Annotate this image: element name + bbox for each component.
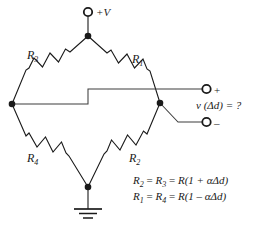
earth-ground-symbol-icon <box>74 209 102 218</box>
junction-dot-left <box>9 101 16 108</box>
resistor-label-r2: R2 <box>129 152 140 167</box>
branch-wire-r4 <box>12 104 88 187</box>
output-negative-sign-label: – <box>214 118 220 129</box>
branch-wire-r3 <box>12 36 88 104</box>
eq1-rhs: R(1 + αΔd) <box>178 174 228 186</box>
equation-r1-r4: R1 = R4 = R(1 – αΔd) <box>133 191 226 205</box>
resistor-label-r3: R3 <box>27 49 38 64</box>
output-terminal-positive-icon[interactable] <box>202 85 210 93</box>
output-voltage-label: v (Δd) = ? <box>196 100 241 111</box>
eq2-rhs: R(1 – αΔd) <box>178 190 226 202</box>
resistor-label-r4-sub: 4 <box>34 158 38 167</box>
circuit-diagram-canvas: +V R3 R1 R4 R2 + – v (Δd) = ? R2 = R3 = … <box>0 0 261 237</box>
resistor-label-r2-sub: 2 <box>136 158 140 167</box>
resistor-label-r3-sub: 3 <box>34 55 38 64</box>
output-wire-positive <box>12 89 202 104</box>
junction-dot-bottom <box>85 184 92 191</box>
equation-r2-r3: R2 = R3 = R(1 + αΔd) <box>133 175 228 189</box>
supply-terminal-icon[interactable] <box>84 8 92 16</box>
output-terminal-negative-icon[interactable] <box>202 118 210 126</box>
supply-terminal-label: +V <box>96 7 110 18</box>
resistor-label-r1-sub: 1 <box>139 59 143 68</box>
resistor-label-r1: R1 <box>132 53 143 68</box>
output-positive-sign-label: + <box>214 85 220 96</box>
junction-dot-right <box>157 100 164 107</box>
resistor-label-r4: R4 <box>27 152 38 167</box>
junction-dot-top <box>85 33 92 40</box>
branch-wire-r1 <box>88 36 160 103</box>
eq2-lhs-a: R <box>133 190 140 202</box>
eq1-lhs-a: R <box>133 174 140 186</box>
